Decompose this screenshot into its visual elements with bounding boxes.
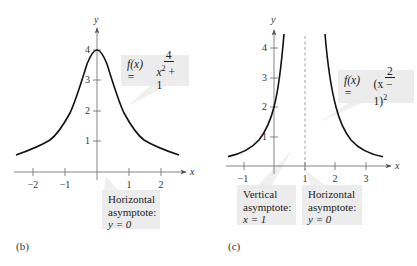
x-tick-label: 3 <box>364 173 369 184</box>
callout-line: asymptote: <box>243 201 290 214</box>
callout-line: asymptote: <box>308 201 356 214</box>
x-tick-label: −2 <box>28 179 39 190</box>
x-tick-label: −1 <box>60 179 71 190</box>
panel-label-b: (b) <box>16 240 29 252</box>
callout-line: x = 1 <box>243 213 290 226</box>
y-tick-label: 2 <box>85 105 90 116</box>
equation-denominator: (x − 1)2 <box>372 78 408 108</box>
callout-line: asymptote: <box>108 206 154 219</box>
panel-b-graph: −2 −1 1 2 1 2 3 4 x y <box>14 14 195 190</box>
equation-pointer-c <box>320 103 362 122</box>
callout-pointer-b <box>104 176 118 190</box>
callout-line: Horizontal <box>108 193 154 206</box>
callout-line: Vertical <box>243 188 290 201</box>
x-tick-label: 2 <box>159 179 164 190</box>
equation-fraction: 4 x2 + 1 <box>154 49 183 92</box>
x-tick-label: 1 <box>303 173 308 184</box>
y-tick-label: 1 <box>85 135 90 146</box>
x-axis-name: x <box>189 166 195 177</box>
callout-pointer-horizontal <box>306 170 324 185</box>
denominator-exponent: 2 <box>383 93 387 102</box>
equation-lhs: f(x) = <box>127 58 151 83</box>
callout-line: Horizontal <box>308 188 356 201</box>
panel-label-c: (c) <box>228 240 240 252</box>
curve-c-left <box>228 34 284 157</box>
horizontal-asymptote-callout-b: Horizontal asymptote: y = 0 <box>102 190 160 229</box>
vertical-asymptote-callout: Vertical asymptote: x = 1 <box>237 185 296 225</box>
equation-label-c: f(x) = 2 (x − 1)2 <box>338 70 414 103</box>
equation-denominator: x2 + 1 <box>154 62 183 92</box>
x-tick-label: 2 <box>333 173 338 184</box>
callout-line: y = 0 <box>108 218 154 231</box>
callout-line: y = 0 <box>308 213 356 226</box>
y-tick-label: 2 <box>262 101 267 112</box>
equation-numerator: 2 <box>385 65 395 78</box>
y-tick-label: 4 <box>262 42 267 53</box>
equation-fraction: 2 (x − 1)2 <box>372 65 408 108</box>
y-tick-label: 3 <box>262 72 267 83</box>
graphs-canvas: −2 −1 1 2 1 2 3 4 x y <box>0 0 417 266</box>
y-tick-label: 3 <box>85 74 90 85</box>
y-axis-name: y <box>270 14 276 25</box>
y-axis-name: y <box>93 14 99 25</box>
x-tick-label: 1 <box>127 179 132 190</box>
y-tick-label: 4 <box>85 44 90 55</box>
equation-lhs: f(x) = <box>344 74 369 99</box>
x-axis-name: x <box>394 160 400 171</box>
x-tick-label: −1 <box>238 173 249 184</box>
callout-pointer-vertical <box>258 150 292 185</box>
equation-numerator: 4 <box>164 49 174 62</box>
horizontal-asymptote-callout-c: Horizontal asymptote: y = 0 <box>302 185 362 225</box>
equation-label-b: f(x) = 4 x2 + 1 <box>121 55 189 86</box>
